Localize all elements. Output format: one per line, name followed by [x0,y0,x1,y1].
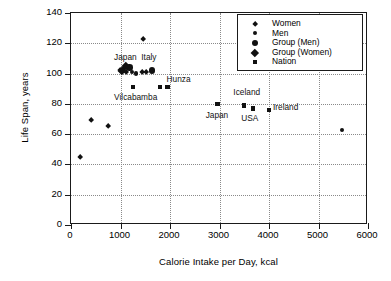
legend-rows: WomenMenGroup (Men)Group (Women)Nation [238,19,362,67]
legend-marker-icon [238,57,272,67]
legend-marker-icon [238,38,272,48]
point-label: Japan [114,53,137,62]
x-tick-label: 6000 [337,230,391,240]
legend-item-label: Nation [272,57,296,67]
y-tick [65,13,71,14]
y-tick [65,74,71,75]
legend-item: Women [238,19,362,29]
y-tick [65,195,71,196]
y-tick [65,104,71,105]
scatter-chart: Life Span, years Calorie Intake per Day,… [0,0,391,281]
legend-item: Group (Women) [238,48,362,58]
point-label: Iceland [233,88,260,97]
y-tick [65,164,71,165]
point-label: Hunza [167,75,191,84]
y-tick-label: 100 [18,68,62,78]
legend-marker-icon [238,19,272,29]
point-label: Vilcabamba [114,93,157,102]
y-tick [65,134,71,135]
y-tick-label: 40 [18,158,62,168]
point-label: Italy [141,53,156,62]
y-tick-label: 20 [18,189,62,199]
point-label: Japan [206,111,229,120]
legend-item: Nation [238,57,362,67]
y-tick-label: 0 [18,219,62,229]
y-tick-label: 140 [18,7,62,17]
chart-legend: WomenMenGroup (Men)Group (Women)Nation [237,14,363,71]
y-tick [65,43,71,44]
y-tick-label: 120 [18,37,62,47]
point-label: USA [241,114,258,123]
point-label: Ireland [273,103,298,112]
legend-marker-icon [238,29,272,39]
y-tick-label: 80 [18,98,62,108]
x-axis-title: Calorie Intake per Day, kcal [70,256,367,267]
legend-marker-icon [238,48,272,58]
y-tick-label: 60 [18,128,62,138]
